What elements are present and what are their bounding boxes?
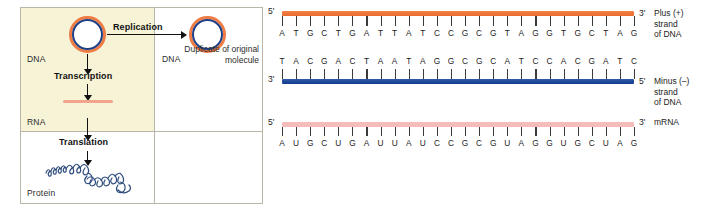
base-letter: G bbox=[589, 56, 595, 66]
base-letter: T bbox=[336, 28, 341, 38]
base-tick bbox=[437, 127, 438, 136]
rna-to-translation-arrow-icon bbox=[87, 118, 88, 136]
base-letter: U bbox=[603, 138, 609, 148]
base-letter: G bbox=[532, 138, 538, 148]
base-tick bbox=[352, 127, 353, 136]
cell-label-dna: DNA bbox=[27, 54, 46, 64]
base-letter: C bbox=[349, 56, 355, 66]
base-tick bbox=[352, 69, 353, 79]
base-letter: A bbox=[279, 28, 285, 38]
base-letter: A bbox=[603, 56, 609, 66]
base-letter: T bbox=[392, 28, 397, 38]
replication-arrow-icon bbox=[107, 34, 181, 35]
base-tick bbox=[550, 16, 551, 26]
base-letter: T bbox=[294, 28, 299, 38]
minus-strand-bases: TACGACTAATAGGCGCATCCACGATC bbox=[282, 56, 634, 68]
base-letter: G bbox=[448, 56, 454, 66]
minus-strand-backbone bbox=[282, 79, 634, 84]
base-letter: G bbox=[490, 138, 496, 148]
cell-label-rna: RNA bbox=[27, 117, 46, 127]
base-letter: T bbox=[617, 56, 622, 66]
base-tick bbox=[437, 69, 438, 79]
base-letter: A bbox=[279, 138, 285, 148]
base-letter: G bbox=[631, 28, 637, 38]
base-tick bbox=[479, 127, 480, 136]
base-tick bbox=[282, 69, 283, 79]
base-tick bbox=[479, 16, 480, 26]
base-tick bbox=[409, 69, 410, 79]
base-tick bbox=[535, 16, 536, 26]
base-tick bbox=[381, 69, 382, 79]
step-label-translation: Translation bbox=[59, 137, 108, 147]
base-tick bbox=[578, 127, 579, 136]
base-letter: T bbox=[378, 28, 383, 38]
base-letter: G bbox=[307, 138, 313, 148]
minus-strand-three-prime-label: 3' bbox=[268, 74, 274, 84]
base-tick bbox=[451, 127, 452, 136]
mrna-base-ticks bbox=[282, 127, 634, 136]
base-tick bbox=[451, 69, 452, 79]
plasmid-inner-ring bbox=[72, 19, 103, 50]
base-tick bbox=[395, 16, 396, 26]
dna-to-transcription-arrow-icon bbox=[87, 54, 88, 70]
base-tick bbox=[634, 16, 635, 26]
central-dogma-flow-panel: Replication Transcription Translation bbox=[20, 7, 263, 204]
base-tick bbox=[550, 127, 551, 136]
base-tick bbox=[296, 127, 297, 136]
base-tick bbox=[366, 127, 367, 136]
base-letter: A bbox=[519, 138, 525, 148]
base-letter: A bbox=[336, 56, 342, 66]
base-tick bbox=[282, 127, 283, 136]
base-letter: C bbox=[532, 56, 538, 66]
base-letter: A bbox=[561, 56, 567, 66]
base-tick bbox=[620, 69, 621, 79]
protein-coil-icon bbox=[43, 160, 149, 196]
base-tick bbox=[381, 127, 382, 136]
base-letter: G bbox=[532, 28, 538, 38]
base-tick bbox=[564, 16, 565, 26]
mrna-bases: AUGCUGAUUAUCCGCGUAGGUGCUAG bbox=[282, 138, 634, 150]
base-tick bbox=[437, 16, 438, 26]
base-tick bbox=[493, 127, 494, 136]
base-tick bbox=[606, 16, 607, 26]
step-label-replication: Replication bbox=[113, 22, 163, 32]
base-letter: A bbox=[392, 56, 398, 66]
base-letter: C bbox=[307, 56, 313, 66]
base-letter: T bbox=[364, 56, 369, 66]
base-letter: T bbox=[420, 28, 425, 38]
transcription-to-rna-arrow-icon bbox=[87, 84, 88, 96]
base-letter: A bbox=[406, 138, 412, 148]
base-letter: A bbox=[378, 56, 384, 66]
base-letter: C bbox=[476, 138, 482, 148]
base-letter: T bbox=[505, 28, 510, 38]
base-letter: U bbox=[335, 138, 341, 148]
base-tick bbox=[564, 127, 565, 136]
base-letter: C bbox=[321, 28, 327, 38]
base-tick bbox=[381, 16, 382, 26]
linear-rna-icon bbox=[63, 100, 113, 103]
base-letter: G bbox=[349, 138, 355, 148]
base-letter: G bbox=[490, 28, 496, 38]
plus-strand-bases: ATGCTGATTATCCGCGTAGGTGCTAG bbox=[282, 28, 634, 40]
plus-strand-three-prime-label: 3' bbox=[639, 8, 645, 18]
base-letter: C bbox=[547, 56, 553, 66]
base-letter: C bbox=[321, 138, 327, 148]
base-letter: A bbox=[364, 138, 370, 148]
base-letter: C bbox=[589, 138, 595, 148]
base-tick bbox=[310, 69, 311, 79]
circular-dna-icon bbox=[69, 16, 106, 53]
base-tick bbox=[366, 16, 367, 26]
base-tick bbox=[324, 69, 325, 79]
base-tick bbox=[423, 69, 424, 79]
base-tick bbox=[324, 16, 325, 26]
base-tick bbox=[479, 69, 480, 79]
base-letter: G bbox=[321, 56, 327, 66]
dna-mrna-sequence-panel: 5' ATGCTGATTATCCGCGTAGGTGCTAG 3' Plus (+… bbox=[263, 0, 704, 209]
minus-strand-base-ticks bbox=[282, 69, 634, 79]
base-tick bbox=[409, 127, 410, 136]
base-letter: C bbox=[448, 138, 454, 148]
base-tick bbox=[507, 69, 508, 79]
base-letter: A bbox=[406, 28, 412, 38]
base-letter: G bbox=[546, 138, 552, 148]
base-tick bbox=[465, 16, 466, 26]
